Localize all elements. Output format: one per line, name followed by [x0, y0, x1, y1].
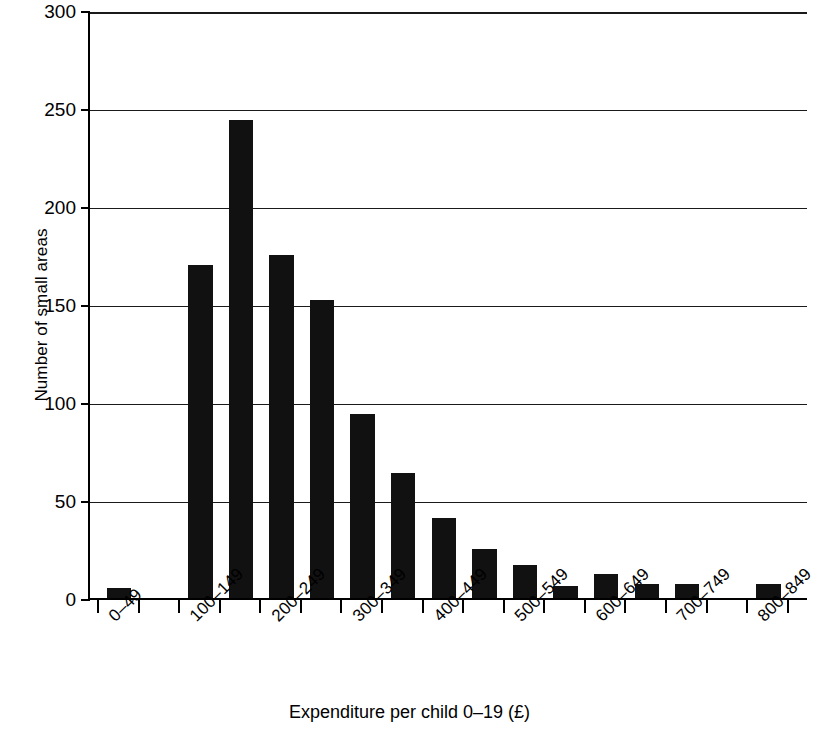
y-tick-mark-300	[81, 11, 90, 13]
x-tick-mark	[422, 598, 424, 613]
y-tick-label-100: 100	[24, 394, 76, 413]
x-axis-title: Expenditure per child 0–19 (£)	[0, 702, 819, 723]
plot-area	[88, 12, 807, 600]
y-tick-mark-100	[81, 403, 90, 405]
y-tick-label-200: 200	[24, 198, 76, 217]
x-tick-mark	[259, 598, 261, 613]
y-tick-mark-250	[81, 109, 90, 111]
y-tick-label-150: 150	[24, 296, 76, 315]
x-tick-mark	[665, 598, 667, 613]
histogram-figure: Number of small areas 050100150200250300…	[0, 0, 819, 736]
y-tick-label-300: 300	[24, 2, 76, 21]
bar-series	[90, 12, 807, 598]
x-tick-mark	[178, 598, 180, 613]
bar	[188, 265, 212, 598]
bar	[310, 300, 334, 598]
y-tick-mark-200	[81, 207, 90, 209]
y-tick-label-250: 250	[24, 100, 76, 119]
x-tick-mark	[584, 598, 586, 613]
y-axis-tick-labels: 050100150200250300	[24, 0, 76, 736]
x-tick-mark	[97, 598, 99, 613]
bar	[432, 518, 456, 598]
y-tick-label-0: 0	[24, 590, 76, 609]
x-tick-mark	[503, 598, 505, 613]
y-tick-label-50: 50	[24, 492, 76, 511]
x-tick-mark	[746, 598, 748, 613]
y-tick-mark-50	[81, 501, 90, 503]
x-tick-mark	[340, 598, 342, 613]
bar	[269, 255, 293, 598]
x-axis-tick-labels: 0–49100–149200–249300–349400–449500–5496…	[88, 612, 807, 692]
bar	[229, 120, 253, 598]
y-tick-mark-150	[81, 305, 90, 307]
bar	[350, 414, 374, 598]
